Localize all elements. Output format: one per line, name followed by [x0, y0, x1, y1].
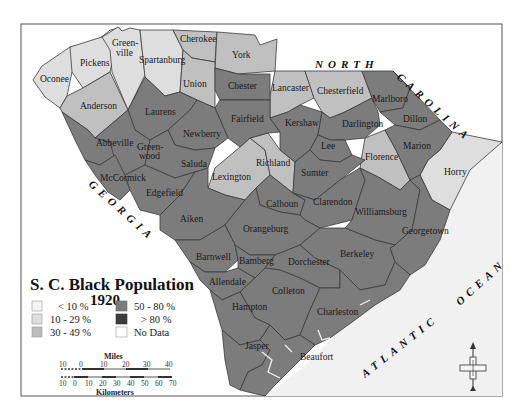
scale-mile-tick-0: 10: [59, 360, 67, 369]
legend-swatch-10-29: [32, 314, 42, 324]
scale-km-tick-5: 40: [127, 379, 135, 388]
label-clarendon: Clarendon: [313, 197, 353, 207]
scale-mile-tick-3: 20: [122, 360, 130, 369]
scale-km-seg-1: [74, 376, 88, 378]
label-chesterfield: Chesterfield: [317, 86, 364, 96]
label-greenville-2: ville: [116, 48, 133, 58]
label-colleton: Colleton: [272, 286, 305, 296]
label-beaufort: Beaufort: [300, 352, 334, 362]
scale-mile-tick-1: 0: [79, 360, 83, 369]
label-georgetown: Georgetown: [402, 226, 449, 236]
legend-swatch-gt80: [116, 314, 127, 324]
label-aiken: Aiken: [180, 214, 203, 224]
label-orangeburg: Orangeburg: [243, 224, 288, 234]
label-pickens: Pickens: [80, 58, 110, 68]
label-bamberg: Bamberg: [239, 256, 274, 266]
label-dillon: Dillon: [403, 114, 428, 124]
legend-label-10-29: 10 - 29 %: [50, 314, 91, 325]
scale-km-tick-3: 20: [99, 379, 107, 388]
scale-km-tick-1: 0: [73, 379, 77, 388]
label-york: York: [232, 50, 251, 60]
scale-km-tick-6: 50: [141, 379, 149, 388]
legend-label-50-80: 50 - 80 %: [134, 301, 175, 312]
label-charleston: Charleston: [317, 307, 358, 317]
legend-swatch-nodata: [116, 327, 127, 337]
label-greenville-1: Green-: [112, 38, 138, 48]
label-darlington: Darlington: [342, 119, 383, 129]
label-union: Union: [183, 79, 207, 89]
label-dorchester: Dorchester: [288, 257, 331, 267]
legend-label-nodata: No Data: [134, 327, 170, 338]
label-anderson: Anderson: [80, 101, 117, 111]
label-abbeville: Abbeville: [96, 138, 133, 148]
label-laurens: Laurens: [145, 107, 176, 117]
label-kershaw: Kershaw: [285, 118, 319, 128]
label-north: NORTH: [314, 58, 379, 70]
legend-swatch-50-80: [116, 301, 127, 311]
label-lee: Lee: [321, 141, 335, 151]
scale-km-tick-7: 60: [155, 379, 163, 388]
label-berkeley: Berkeley: [340, 249, 375, 259]
scale-km-seg-4: [116, 376, 130, 378]
label-oconee: Oconee: [40, 74, 69, 84]
label-richland: Richland: [256, 158, 291, 168]
label-saluda: Saluda: [181, 159, 208, 169]
legend-label-gt80: > 80 %: [141, 314, 172, 325]
label-greenwood-2: wood: [139, 151, 160, 161]
scale-km-tick-4: 30: [113, 379, 121, 388]
label-barnwell: Barnwell: [196, 252, 231, 262]
label-horry: Horry: [444, 167, 467, 177]
label-jasper: Jasper: [245, 341, 270, 351]
legend-year: 1920: [90, 292, 120, 308]
label-newberry: Newberry: [183, 129, 221, 139]
scale-miles-seg-3: [126, 368, 148, 370]
label-lancaster: Lancaster: [272, 83, 310, 93]
label-sumter: Sumter: [301, 168, 329, 178]
scale-km-seg-3: [102, 376, 116, 378]
label-mccormick: McCormick: [100, 173, 146, 183]
label-lexington: Lexington: [212, 172, 251, 182]
legend-label-30-49: 30 - 49 %: [50, 327, 91, 338]
map-canvas: Oconee Pickens Green- ville Spartanburg …: [0, 0, 521, 416]
label-marlboro: Marlboro: [372, 94, 408, 104]
scale-miles-seg-4: [148, 368, 170, 370]
label-calhoun: Calhoun: [266, 199, 298, 209]
label-edgefield: Edgefield: [146, 188, 183, 198]
legend-swatch-lt10: [32, 301, 42, 311]
label-marion: Marion: [403, 141, 431, 151]
label-hampton: Hampton: [232, 302, 268, 312]
scale-km-seg-5: [130, 376, 144, 378]
label-cherokee: Cherokee: [180, 34, 216, 44]
scale-miles-seg-1: [82, 368, 104, 370]
scale-km-seg-6: [144, 376, 158, 378]
scale-km-seg-7: [158, 376, 172, 378]
scale-km-seg-2: [88, 376, 102, 378]
legend-label-lt10: < 10 %: [58, 301, 89, 312]
label-allendale: Allendale: [209, 277, 246, 287]
scale-km-title: Kilometers: [96, 388, 134, 397]
label-williamsburg: Williamsburg: [355, 207, 407, 217]
label-fairfield: Fairfield: [231, 114, 264, 124]
legend-swatch-30-49: [32, 327, 42, 337]
label-chester: Chester: [228, 81, 258, 91]
scale-mile-tick-4: 30: [143, 360, 151, 369]
label-spartanburg: Spartanburg: [139, 55, 186, 65]
scale-km-tick-0: 10: [59, 379, 67, 388]
label-florence: Florence: [365, 152, 398, 162]
scale-mile-tick-2: 10: [100, 360, 108, 369]
scale-mile-tick-5: 40: [165, 360, 173, 369]
scale-miles-seg-2: [104, 368, 126, 370]
scale-km-tick-8: 70: [169, 379, 177, 388]
scale-km-tick-2: 10: [85, 379, 93, 388]
